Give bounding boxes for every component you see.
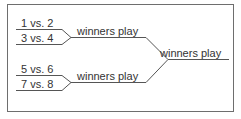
match-label-2: 3 vs. 4 bbox=[21, 32, 53, 44]
semi-label-1: winners play bbox=[77, 25, 138, 37]
final-label: winners play bbox=[160, 47, 221, 59]
match-label-1: 1 vs. 2 bbox=[21, 17, 53, 29]
semi-label-2: winners play bbox=[77, 70, 138, 82]
match-label-3: 5 vs. 6 bbox=[21, 63, 53, 75]
semi-line-1 bbox=[71, 38, 168, 60]
match-label-4: 7 vs. 8 bbox=[21, 78, 53, 90]
